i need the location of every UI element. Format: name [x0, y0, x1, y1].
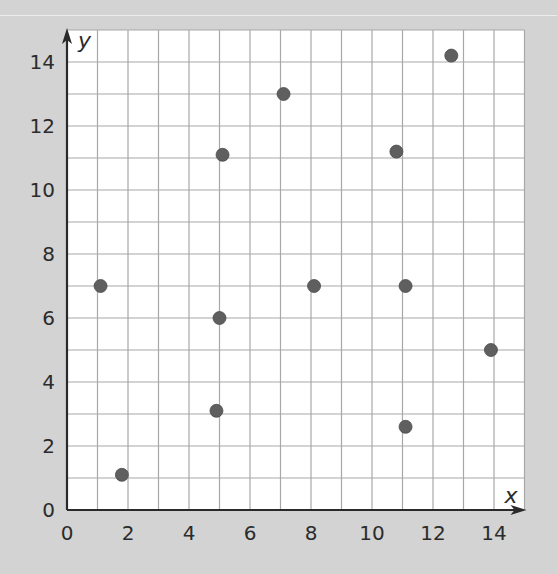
x-tick-label: 0 [61, 521, 74, 545]
x-tick-label: 8 [305, 521, 318, 545]
plot-area [67, 30, 525, 510]
data-point [445, 49, 458, 62]
x-axis-label: x [504, 483, 519, 508]
y-tick-label: 10 [30, 178, 55, 202]
x-tick-label: 10 [359, 521, 384, 545]
y-tick-label: 0 [42, 498, 55, 522]
x-tick-label: 6 [244, 521, 257, 545]
data-point [399, 280, 412, 293]
data-point [213, 312, 226, 325]
scatter-plot: 02468101214 02468101214 x y [0, 0, 557, 574]
y-tick-labels: 02468101214 [30, 50, 55, 522]
data-point [390, 145, 403, 158]
data-point [399, 420, 412, 433]
y-axis-label: y [77, 28, 92, 53]
data-point [216, 148, 229, 161]
x-tick-label: 2 [122, 521, 135, 545]
data-point [484, 344, 497, 357]
data-point [277, 88, 290, 101]
y-tick-label: 14 [30, 50, 55, 74]
x-tick-label: 14 [481, 521, 506, 545]
data-point [210, 404, 223, 417]
y-tick-label: 8 [42, 242, 55, 266]
y-tick-label: 4 [42, 370, 55, 394]
y-tick-label: 12 [30, 114, 55, 138]
y-tick-label: 2 [42, 434, 55, 458]
x-tick-label: 4 [183, 521, 196, 545]
x-tick-label: 12 [420, 521, 445, 545]
data-point [308, 280, 321, 293]
data-point [94, 280, 107, 293]
x-tick-labels: 02468101214 [61, 521, 507, 545]
data-point [115, 468, 128, 481]
y-tick-label: 6 [42, 306, 55, 330]
